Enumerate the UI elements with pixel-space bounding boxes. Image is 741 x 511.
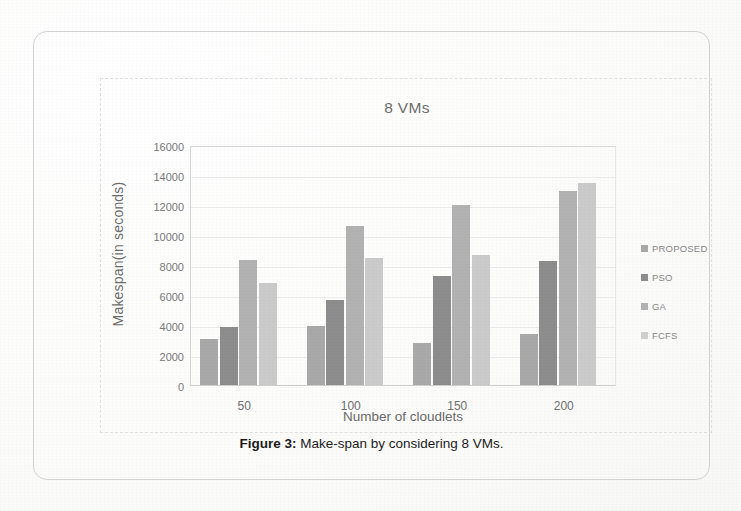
y-axis-tick-label: 12000 xyxy=(153,201,184,213)
bar-pso-100 xyxy=(326,300,344,385)
figure-caption-label: Figure 3: xyxy=(239,436,296,451)
y-axis-title-label: Makespan(in seconds) xyxy=(110,139,126,369)
bar-pso-200 xyxy=(539,261,557,386)
y-axis-tick-label: 6000 xyxy=(160,291,184,303)
legend-label: GA xyxy=(652,301,666,312)
legend-item-fcfs: FCFS xyxy=(641,321,721,350)
bar-group: 50 xyxy=(191,147,298,385)
y-axis-tick-label: 2000 xyxy=(160,351,184,363)
legend-swatch-icon xyxy=(641,303,648,310)
figure-caption: Figure 3: Make-span by considering 8 VMs… xyxy=(33,436,710,451)
figure-caption-text: Make-span by considering 8 VMs. xyxy=(296,436,503,451)
bar-fcfs-200 xyxy=(578,183,596,385)
y-axis-tick-label: 4000 xyxy=(160,321,184,333)
bar-group: 200 xyxy=(511,147,618,385)
bar-ga-100 xyxy=(346,226,364,385)
chart-area: 8 VMs Makespan(in seconds) 0200040006000… xyxy=(100,78,712,433)
legend-item-proposed: PROPOSED xyxy=(641,234,721,263)
legend-label: PROPOSED xyxy=(652,243,707,254)
bar-ga-150 xyxy=(452,205,470,385)
legend-swatch-icon xyxy=(641,245,648,252)
chart-legend: PROPOSEDPSOGAFCFS xyxy=(641,234,721,350)
bar-fcfs-150 xyxy=(472,255,490,386)
bar-proposed-150 xyxy=(413,343,431,385)
y-axis-title: Makespan(in seconds) xyxy=(110,0,126,139)
bar-pso-50 xyxy=(220,327,238,385)
y-axis-tick-label: 8000 xyxy=(160,261,184,273)
y-axis-tick-label: 0 xyxy=(178,381,184,393)
plot-area: 0200040006000800010000120001400016000501… xyxy=(190,146,616,386)
y-axis-tick-label: 10000 xyxy=(153,231,184,243)
bar-ga-200 xyxy=(559,191,577,385)
legend-swatch-icon xyxy=(641,274,648,281)
bar-fcfs-100 xyxy=(365,258,383,386)
chart-title: 8 VMs xyxy=(101,99,713,117)
bar-group: 150 xyxy=(404,147,511,385)
y-axis-tick-label: 14000 xyxy=(153,171,184,183)
bar-fcfs-50 xyxy=(259,283,277,385)
legend-item-ga: GA xyxy=(641,292,721,321)
legend-label: FCFS xyxy=(652,330,678,341)
bar-proposed-100 xyxy=(307,326,325,385)
bar-group: 100 xyxy=(298,147,405,385)
legend-item-pso: PSO xyxy=(641,263,721,292)
legend-label: PSO xyxy=(652,272,673,283)
x-axis-title: Number of cloudlets xyxy=(190,409,616,424)
bar-pso-150 xyxy=(433,276,451,385)
bar-ga-50 xyxy=(239,260,257,385)
y-axis-tick-label: 16000 xyxy=(153,141,184,153)
bar-proposed-50 xyxy=(200,339,218,386)
bar-proposed-200 xyxy=(520,334,538,385)
legend-swatch-icon xyxy=(641,332,648,339)
figure-frame: 8 VMs Makespan(in seconds) 0200040006000… xyxy=(33,31,710,480)
scanned-page: 8 VMs Makespan(in seconds) 0200040006000… xyxy=(0,0,741,511)
